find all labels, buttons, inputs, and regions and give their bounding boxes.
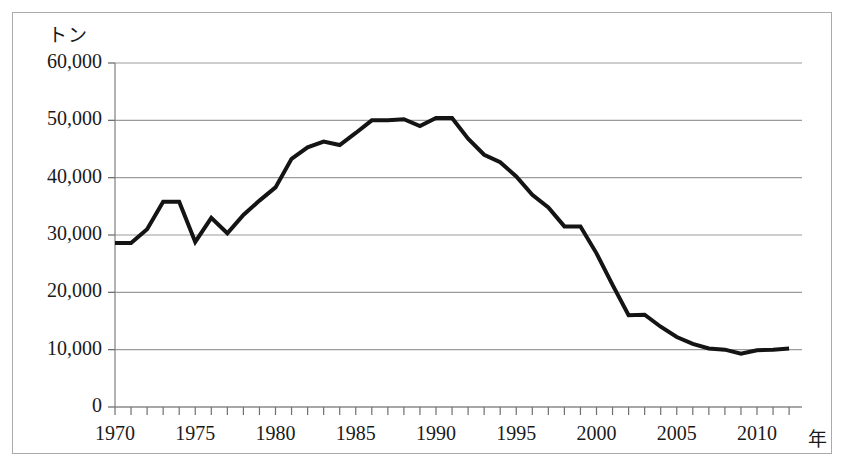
chart-gridlines — [115, 63, 802, 350]
chart-plot-area — [0, 0, 841, 471]
y-axis-ticks — [108, 63, 115, 407]
chart-figure: トン 年 60,00050,00040,00030,00020,00010,00… — [0, 0, 841, 471]
x-axis-ticks — [115, 407, 789, 415]
chart-data-series — [115, 118, 789, 354]
data-series-line — [115, 118, 789, 354]
